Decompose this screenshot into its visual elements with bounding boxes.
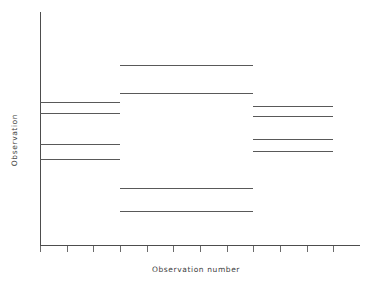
chart-figure: Observation Observation number	[0, 0, 381, 285]
x-axis-label: Observation number	[152, 265, 240, 274]
observation-step-plot: Observation Observation number	[0, 0, 381, 285]
chart-background	[0, 0, 381, 285]
y-axis-label: Observation	[10, 114, 19, 166]
